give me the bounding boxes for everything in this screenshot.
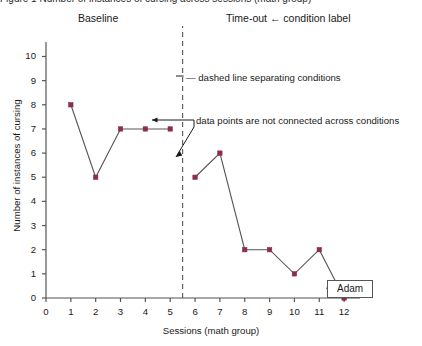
data-point-marker: [118, 127, 122, 131]
figure-container: Figure 1 Number of instances of cursing …: [0, 0, 422, 346]
data-point-marker: [143, 127, 147, 131]
annotation-arrowhead-left: [152, 118, 158, 123]
data-point-marker: [292, 272, 296, 276]
data-point-marker: [93, 175, 97, 179]
data-line-time-out: [195, 153, 344, 298]
data-point-marker: [218, 151, 222, 155]
data-point-marker: [168, 127, 172, 131]
data-line-baseline: [71, 105, 170, 177]
data-point-marker: [317, 247, 321, 251]
subject-label-box: Adam: [327, 280, 373, 298]
annotation-arrowhead-diagonal: [176, 151, 182, 157]
data-point-marker: [243, 247, 247, 251]
data-point-marker: [267, 247, 271, 251]
data-point-marker: [69, 103, 73, 107]
data-point-marker: [193, 175, 197, 179]
